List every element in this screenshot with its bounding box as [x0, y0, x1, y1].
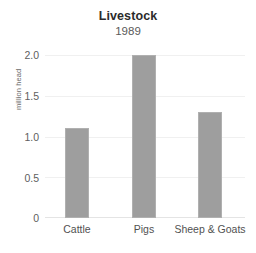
x-tick-label-cattle: Cattle: [63, 223, 90, 235]
x-tick-label-sheep-and-goats: Sheep & Goats: [174, 223, 245, 235]
y-tick-label-1-0: 1.0: [24, 132, 39, 143]
y-axis-tick-labels: 2.0 1.5 1.0 0.5 0: [0, 0, 45, 253]
x-axis-tick-labels: Cattle Pigs Sheep & Goats: [45, 223, 245, 243]
y-tick-label-0-5: 0.5: [24, 173, 39, 184]
bar-pigs: [132, 55, 156, 218]
y-tick-label-2-0: 2.0: [24, 50, 39, 61]
plot-area: [45, 55, 245, 218]
y-tick-label-1-5: 1.5: [24, 91, 39, 102]
bar-cattle: [65, 128, 89, 218]
x-tick-label-pigs: Pigs: [134, 223, 154, 235]
bar-sheep-and-goats: [198, 112, 222, 218]
bar-chart-figure: Livestock 1989 million head 2.0 1.5 1.0 …: [0, 0, 256, 253]
y-tick-label-0: 0: [33, 213, 39, 224]
